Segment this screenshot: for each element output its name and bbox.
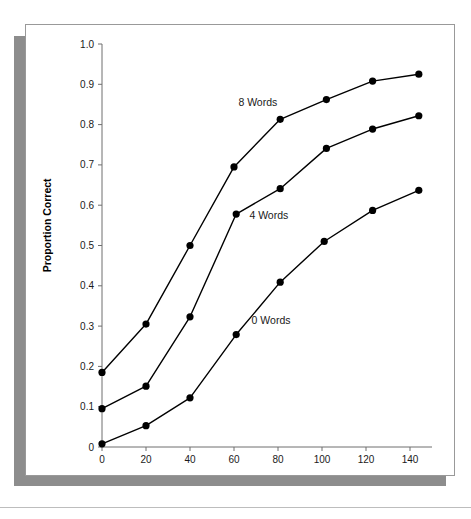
- y-axis-title: Proportion Correct: [41, 178, 53, 272]
- y-axis-tick-label: 0.1: [80, 401, 94, 412]
- data-point: [277, 185, 284, 192]
- series-label-2: 0 Words: [252, 314, 291, 326]
- x-axis-title: Flash Duration in Milliseconds: [191, 475, 343, 476]
- data-point: [186, 313, 193, 320]
- chart-plot-area: 00.10.20.30.40.50.60.70.80.91.0020406080…: [25, 24, 455, 476]
- y-axis-tick-label: 0.8: [80, 119, 94, 130]
- bottom-divider: [0, 507, 471, 508]
- data-point: [233, 210, 240, 217]
- data-point: [415, 112, 422, 119]
- data-point: [277, 279, 284, 286]
- y-axis-tick-label: 0.3: [80, 321, 94, 332]
- y-axis-tick-label: 0.9: [80, 79, 94, 90]
- data-point: [369, 207, 376, 214]
- y-axis-tick-label: 0: [88, 442, 94, 453]
- y-axis-tick-label: 0.6: [80, 200, 94, 211]
- x-axis-tick-label: 100: [314, 454, 331, 465]
- data-point: [415, 71, 422, 78]
- data-point: [369, 125, 376, 132]
- data-point: [186, 394, 193, 401]
- figure-root: 00.10.20.30.40.50.60.70.80.91.0020406080…: [0, 0, 471, 519]
- data-point: [98, 440, 105, 447]
- series-label-0: 8 Words: [238, 96, 277, 108]
- data-point: [233, 331, 240, 338]
- data-point: [142, 320, 149, 327]
- x-axis-tick-label: 80: [272, 454, 284, 465]
- data-point: [415, 187, 422, 194]
- x-axis-tick-label: 40: [184, 454, 196, 465]
- series-line-0: [102, 74, 419, 372]
- y-axis-tick-label: 1.0: [80, 39, 94, 50]
- x-axis-tick-label: 20: [140, 454, 152, 465]
- series-label-1: 4 Words: [249, 209, 288, 221]
- y-axis-tick-label: 0.2: [80, 361, 94, 372]
- data-point: [323, 96, 330, 103]
- y-axis-tick-label: 0.4: [80, 280, 94, 291]
- y-axis-tick-label: 0.7: [80, 159, 94, 170]
- data-point: [369, 77, 376, 84]
- top-faint-text: [300, 1, 465, 12]
- line-chart: 00.10.20.30.40.50.60.70.80.91.0020406080…: [25, 24, 455, 476]
- data-point: [142, 383, 149, 390]
- y-axis-tick-label: 0.5: [80, 240, 94, 251]
- data-point: [230, 163, 237, 170]
- data-point: [142, 422, 149, 429]
- data-point: [323, 145, 330, 152]
- data-point: [98, 369, 105, 376]
- data-point: [186, 242, 193, 249]
- series-line-1: [102, 116, 419, 409]
- data-point: [277, 116, 284, 123]
- data-point: [98, 405, 105, 412]
- x-axis-tick-label: 140: [402, 454, 419, 465]
- x-axis-tick-label: 0: [99, 454, 105, 465]
- x-axis-tick-label: 120: [358, 454, 375, 465]
- x-axis-tick-label: 60: [228, 454, 240, 465]
- data-point: [321, 238, 328, 245]
